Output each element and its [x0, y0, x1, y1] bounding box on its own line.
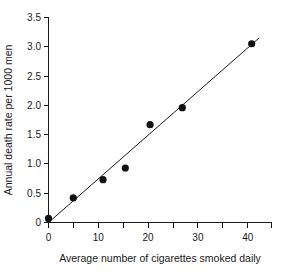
y-axis-ticks	[44, 17, 48, 222]
regression-line	[49, 38, 260, 223]
y-tick-label: 3.5	[27, 12, 41, 23]
y-tick-label: 1.0	[27, 158, 41, 169]
axes-group	[48, 17, 272, 223]
data-point	[99, 176, 106, 183]
y-tick-label: 1.5	[27, 129, 41, 140]
x-axis-ticks	[49, 223, 272, 228]
y-tick-label: 0.5	[27, 188, 41, 199]
y-tick-label: 0	[35, 217, 41, 228]
data-point	[146, 121, 153, 128]
scatter-plot: 0 0.5 1.0 1.5 2.0 2.5 3.0 3.5 0 10 20	[0, 0, 283, 277]
chart-figure: 0 0.5 1.0 1.5 2.0 2.5 3.0 3.5 0 10 20	[0, 0, 283, 277]
data-point	[70, 194, 77, 201]
x-tick-label: 20	[143, 232, 155, 243]
data-points-group	[45, 40, 255, 222]
y-tick-label: 2.5	[27, 71, 41, 82]
x-tick-label: 40	[242, 232, 254, 243]
x-tick-label: 10	[93, 232, 105, 243]
data-point	[122, 164, 129, 171]
y-tick-label: 2.0	[27, 100, 41, 111]
data-point	[179, 104, 186, 111]
data-point	[248, 40, 255, 47]
y-axis-tick-labels: 0 0.5 1.0 1.5 2.0 2.5 3.0 3.5	[27, 12, 41, 228]
x-axis-tick-labels: 0 10 20 30 40	[46, 232, 254, 243]
x-axis-title: Average number of cigarettes smoked dail…	[59, 252, 261, 264]
y-axis-title: Annual death rate per 1000 men	[2, 45, 14, 196]
x-tick-label: 30	[192, 232, 204, 243]
data-point	[45, 215, 52, 222]
y-tick-label: 3.0	[27, 41, 41, 52]
x-tick-label: 0	[46, 232, 52, 243]
